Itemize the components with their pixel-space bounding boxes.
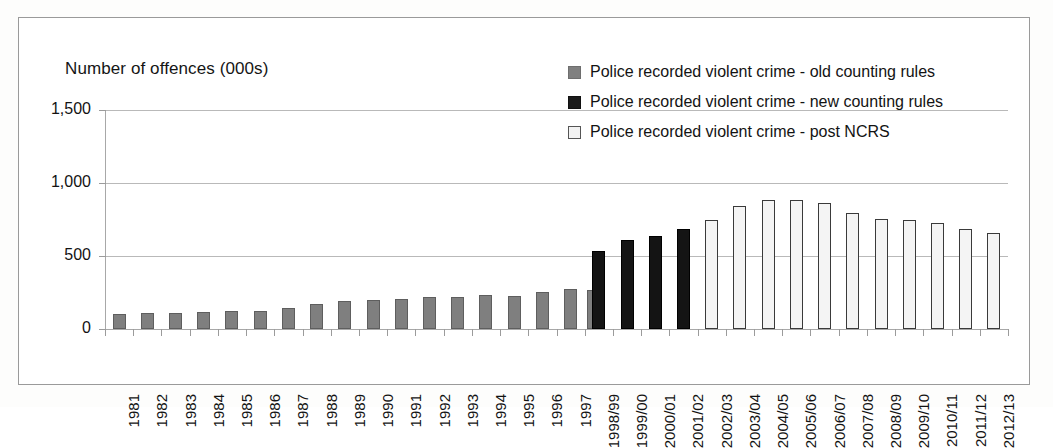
bar-ncrs-2006-07 xyxy=(818,203,831,329)
x-axis-tick-label: 1996 xyxy=(548,394,565,427)
x-axis-tick-label: 1982 xyxy=(153,394,170,427)
bar-new-2001-02 xyxy=(677,229,690,329)
x-tick-mark xyxy=(359,329,360,336)
bar-old-1984 xyxy=(197,312,210,329)
x-axis-tick-label: 2002/03 xyxy=(718,394,735,448)
x-tick-mark xyxy=(218,329,219,336)
bar-old-1985 xyxy=(225,311,238,329)
bar-ncrs-2005-06 xyxy=(790,200,803,329)
x-tick-mark xyxy=(472,329,473,336)
x-axis-tick-label: 2008/09 xyxy=(887,394,904,448)
bar-old-1987 xyxy=(282,308,295,329)
chart-frame: Number of offences (000s) Police recorde… xyxy=(18,17,1030,385)
bar-old-1982 xyxy=(141,313,154,329)
y-tick-mark xyxy=(99,256,106,257)
x-tick-mark xyxy=(613,329,614,336)
x-tick-mark xyxy=(161,329,162,336)
x-tick-mark xyxy=(246,329,247,336)
legend-item-label: Police recorded violent crime - new coun… xyxy=(590,93,943,111)
y-axis-tick-label: 500 xyxy=(27,246,91,264)
gridline xyxy=(105,256,1008,257)
bar-ncrs-2010-11 xyxy=(931,223,944,329)
bar-old-1993 xyxy=(451,297,464,329)
x-tick-mark xyxy=(867,329,868,336)
x-axis-tick-label: 1994 xyxy=(492,394,509,427)
x-axis-tick-label: 1987 xyxy=(294,394,311,427)
x-tick-mark xyxy=(190,329,191,336)
y-tick-mark xyxy=(99,183,106,184)
bar-new-1998-99 xyxy=(592,251,605,329)
x-tick-mark xyxy=(585,329,586,336)
bar-new-2000-01 xyxy=(649,236,662,329)
bar-ncrs-2009-10 xyxy=(903,220,916,329)
x-axis-tick-label: 1990 xyxy=(379,394,396,427)
bar-old-1997 xyxy=(564,289,577,329)
y-axis-tick-label: 1,000 xyxy=(27,173,91,191)
bar-ncrs-2012-13 xyxy=(987,233,1000,329)
x-axis-tick-label: 2004/05 xyxy=(774,394,791,448)
y-tick-mark xyxy=(99,110,106,111)
x-tick-mark xyxy=(331,329,332,336)
x-axis-tick-label: 2009/10 xyxy=(915,394,932,448)
bar-ncrs-2007-08 xyxy=(846,213,859,329)
x-axis-tick-label: 2007/08 xyxy=(859,394,876,448)
x-tick-mark xyxy=(980,329,981,336)
x-axis-tick-label: 1995 xyxy=(520,394,537,427)
x-axis-labels: 1981198219831984198519861987198819891990… xyxy=(105,336,1008,398)
x-tick-mark xyxy=(698,329,699,336)
bar-old-1991 xyxy=(395,299,408,329)
x-axis-tick-label: 1988 xyxy=(323,394,340,427)
x-axis-tick-label: 2001/02 xyxy=(689,394,706,448)
bar-old-1981 xyxy=(113,314,126,329)
y-axis-tick-label: 0 xyxy=(27,319,91,337)
x-axis-tick-label: 1998/99 xyxy=(605,394,622,448)
y-axis-tick-label: 1,500 xyxy=(27,100,91,118)
x-tick-mark xyxy=(444,329,445,336)
gridline xyxy=(105,183,1008,184)
bar-ncrs-2008-09 xyxy=(875,219,888,329)
x-tick-mark xyxy=(923,329,924,336)
x-axis-tick-label: 1992 xyxy=(436,394,453,427)
x-axis-tick-label: 2006/07 xyxy=(831,394,848,448)
bar-ncrs-2004-05 xyxy=(762,200,775,329)
x-axis-tick-label: 1983 xyxy=(182,394,199,427)
gridline xyxy=(105,110,1008,111)
x-tick-mark xyxy=(387,329,388,336)
bar-new-1999-00 xyxy=(621,240,634,329)
x-axis-tick-label: 1993 xyxy=(464,394,481,427)
x-axis-tick-label: 1985 xyxy=(238,394,255,427)
x-tick-mark xyxy=(810,329,811,336)
y-axis-title: Number of offences (000s) xyxy=(65,59,268,79)
bar-ncrs-2002-03 xyxy=(705,220,718,329)
x-tick-mark xyxy=(726,329,727,336)
x-tick-mark xyxy=(415,329,416,336)
x-tick-mark xyxy=(303,329,304,336)
x-axis-tick-label: 1999/00 xyxy=(633,394,650,448)
legend-item-old[interactable]: Police recorded violent crime - old coun… xyxy=(568,59,943,85)
x-tick-mark xyxy=(105,329,106,336)
x-tick-mark xyxy=(952,329,953,336)
x-tick-mark xyxy=(133,329,134,336)
bar-old-1986 xyxy=(254,311,267,329)
bar-old-1988 xyxy=(310,304,323,329)
x-axis-tick-label: 2011/12 xyxy=(972,394,989,447)
x-tick-mark xyxy=(557,329,558,336)
bar-ncrs-2003-04 xyxy=(733,206,746,329)
x-tick-mark xyxy=(500,329,501,336)
x-tick-mark xyxy=(641,329,642,336)
x-tick-mark xyxy=(1008,329,1009,336)
bar-old-1989 xyxy=(338,301,351,329)
bar-ncrs-2011-12 xyxy=(959,229,972,329)
bar-old-1992 xyxy=(423,297,436,329)
x-tick-mark xyxy=(839,329,840,336)
x-tick-mark xyxy=(895,329,896,336)
x-axis-tick-label: 1997 xyxy=(577,394,594,427)
x-axis-tick-label: 2005/06 xyxy=(802,394,819,448)
x-axis-tick-label: 1981 xyxy=(125,394,142,427)
x-axis-tick-label: 1989 xyxy=(351,394,368,427)
bar-old-1995 xyxy=(508,296,521,329)
x-axis-tick-label: 1986 xyxy=(266,394,283,427)
x-tick-mark xyxy=(669,329,670,336)
bar-old-1983 xyxy=(169,313,182,329)
